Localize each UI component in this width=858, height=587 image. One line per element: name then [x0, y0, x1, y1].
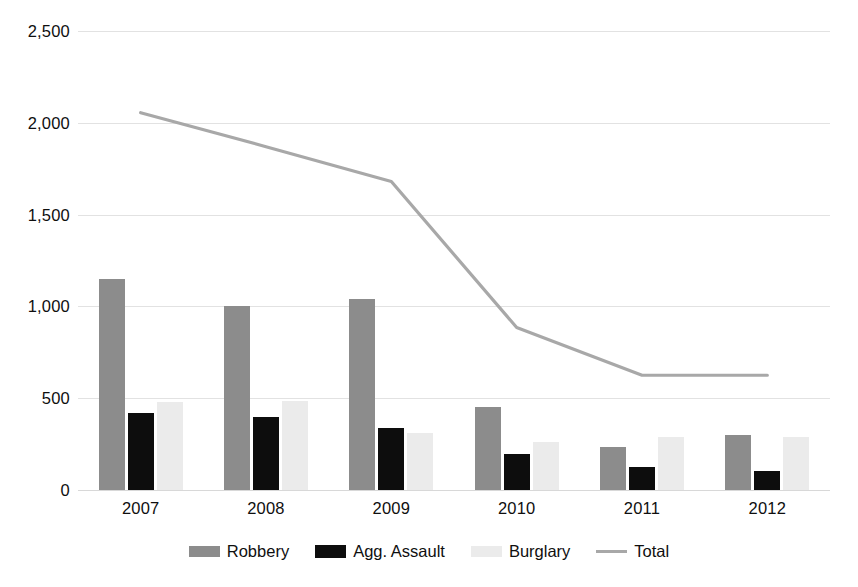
legend-item-robbery[interactable]: Robbery [189, 543, 289, 560]
x-tick-label-2012: 2012 [749, 500, 787, 517]
legend-label: Burglary [509, 543, 570, 560]
y-tick-label: 1,500 [8, 207, 70, 224]
chart-legend: RobberyAgg. AssaultBurglaryTotal [0, 543, 858, 560]
x-axis: 200720082009201020112012 [0, 500, 858, 526]
x-tick-label-2008: 2008 [247, 500, 285, 517]
x-tick-label-2010: 2010 [498, 500, 536, 517]
y-tick-label: 2,500 [8, 23, 70, 40]
legend-swatch-assault-icon [315, 545, 346, 558]
plot-area [78, 31, 830, 490]
legend-label: Total [634, 543, 669, 560]
y-tick-label: 0 [8, 482, 70, 499]
legend-label: Agg. Assault [353, 543, 445, 560]
crime-statistics-chart: 05001,0001,5002,0002,500 200720082009201… [0, 0, 858, 587]
y-tick-label: 2,000 [8, 115, 70, 132]
legend-label: Robbery [227, 543, 289, 560]
legend-swatch-robbery-icon [189, 546, 220, 557]
x-tick-label-2007: 2007 [122, 500, 160, 517]
legend-item-total[interactable]: Total [596, 543, 669, 560]
x-tick-label-2011: 2011 [624, 500, 660, 517]
legend-swatch-burglary-icon [471, 546, 502, 557]
y-tick-label: 500 [8, 390, 70, 407]
legend-swatch-total-icon [596, 546, 627, 557]
x-tick-label-2009: 2009 [373, 500, 411, 517]
y-axis: 05001,0001,5002,0002,500 [0, 31, 70, 490]
legend-item-assault[interactable]: Agg. Assault [315, 543, 445, 560]
legend-item-burglary[interactable]: Burglary [471, 543, 570, 560]
total-line-series [78, 31, 830, 490]
gridline [78, 490, 830, 491]
y-tick-label: 1,000 [8, 298, 70, 315]
